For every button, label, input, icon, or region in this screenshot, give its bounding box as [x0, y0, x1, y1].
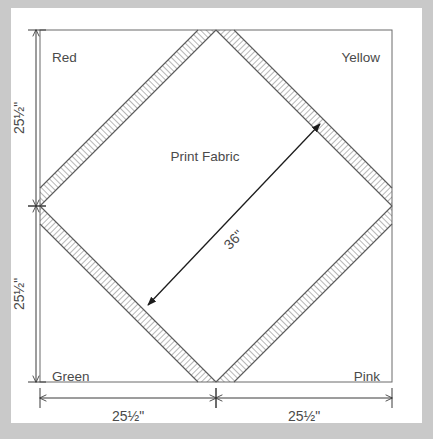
- hatched-band-lower-right: [216, 206, 392, 382]
- dimension-left-upper: 25½": [11, 30, 46, 206]
- dimension-left-lower: 25½": [11, 206, 46, 382]
- hatched-band-lower-left: [40, 206, 216, 382]
- dimension-bottom-left: 25½": [40, 388, 216, 424]
- center-print-fabric-label: Print Fabric: [170, 149, 239, 164]
- dimension-bottom-right: 25½": [216, 388, 392, 424]
- dimension-left-upper-label: 25½": [11, 102, 27, 134]
- quilt-layout-diagram: Red Yellow Green Pink Print Fabric 36" 2…: [0, 0, 433, 439]
- corner-label-pink: Pink: [354, 369, 381, 384]
- corner-label-red: Red: [52, 50, 77, 65]
- diagram-page: Red Yellow Green Pink Print Fabric 36" 2…: [0, 0, 433, 439]
- diagonal-measure-label: 36": [221, 227, 247, 253]
- dimension-left-lower-label: 25½": [11, 278, 27, 310]
- corner-label-yellow: Yellow: [341, 50, 380, 65]
- dimension-bottom-left-label: 25½": [112, 408, 144, 424]
- dimension-bottom-right-label: 25½": [288, 408, 320, 424]
- outer-square-frame: [40, 30, 392, 382]
- corner-label-green: Green: [52, 369, 90, 384]
